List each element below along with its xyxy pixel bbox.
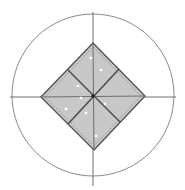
speck bbox=[65, 108, 67, 110]
speck bbox=[100, 69, 102, 71]
speck bbox=[85, 112, 87, 114]
geometric-figure bbox=[0, 0, 185, 190]
center-point bbox=[91, 94, 95, 98]
speck bbox=[80, 97, 82, 99]
diagram-canvas bbox=[0, 0, 185, 190]
speck bbox=[104, 103, 106, 105]
speck bbox=[90, 57, 92, 59]
speck bbox=[95, 135, 97, 137]
speck bbox=[77, 85, 79, 87]
